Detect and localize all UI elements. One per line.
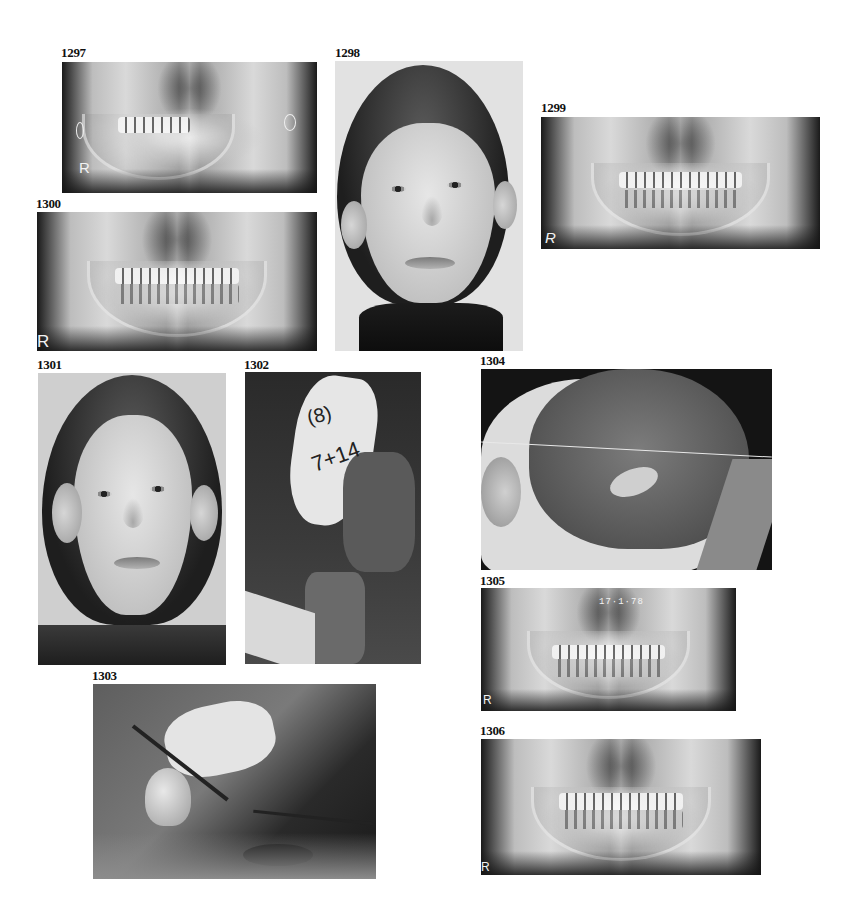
dentition (118, 117, 189, 133)
mouth (114, 557, 160, 569)
figure-label-1299: 1299 (541, 101, 566, 114)
ring-marker-left (76, 122, 84, 139)
ear (481, 457, 521, 527)
eye-left (447, 182, 463, 188)
radiograph-shadow (37, 326, 317, 351)
figure-1303-intraoperative (93, 684, 376, 879)
ear (145, 768, 191, 826)
figure-1299-radiograph: R (541, 117, 820, 249)
figure-1300-radiograph: R (37, 212, 317, 351)
side-marker-r: R (79, 160, 90, 175)
figure-label-1298: 1298 (335, 46, 360, 59)
side-marker-r: R (545, 230, 556, 245)
figure-label-1305: 1305 (480, 574, 505, 587)
figure-label-1304: 1304 (480, 354, 505, 367)
side-marker-r: R (483, 694, 492, 706)
figure-1297-radiograph: R (62, 62, 317, 193)
figure-label-1301: 1301 (37, 358, 62, 371)
dentition-lower (619, 190, 742, 208)
figure-1298-portrait (335, 61, 523, 351)
dentition-upper (559, 793, 682, 809)
radiograph-shadow (541, 225, 820, 249)
ear-left (190, 485, 218, 541)
nose (122, 498, 144, 528)
figure-label-1300: 1300 (36, 197, 61, 210)
mouth (405, 257, 455, 269)
turtleneck-collar (359, 303, 503, 351)
side-marker-r: R (37, 333, 49, 350)
shirt-collar (38, 625, 226, 665)
drape (93, 833, 376, 879)
dentition-upper (619, 172, 742, 188)
radiograph-shadow (481, 689, 736, 711)
figure-1306-radiograph: R (481, 739, 761, 875)
dentition-lower (559, 810, 682, 829)
eye-right (96, 491, 112, 497)
figure-label-1303: 1303 (92, 669, 117, 682)
date-stamp: 17·1·78 (599, 598, 644, 607)
dentition-upper (115, 268, 238, 285)
eye-left (150, 486, 166, 492)
ear-right (341, 201, 367, 249)
figure-label-1302: 1302 (244, 358, 269, 371)
probe-instrument (253, 810, 373, 826)
figure-1305-radiograph: 17·1·78 R (481, 588, 736, 711)
figure-label-1297: 1297 (61, 46, 86, 59)
eye-right (390, 186, 406, 192)
figure-1302-intraoperative: (8) 7+14 (245, 372, 421, 664)
figure-1304-intraoperative (481, 369, 772, 570)
ear-left (493, 181, 517, 229)
figure-label-1306: 1306 (480, 724, 505, 737)
dentition-lower (552, 659, 664, 676)
nose (421, 196, 443, 226)
ear-right (52, 483, 82, 543)
tissue-region (343, 452, 415, 572)
figure-1301-portrait (38, 373, 226, 665)
radiograph-shadow (481, 851, 761, 875)
radiograph-shadow (62, 169, 317, 193)
dentition-upper (552, 645, 664, 660)
dentition-lower (115, 284, 238, 303)
ring-marker-right (284, 114, 296, 131)
side-marker-r: R (481, 861, 490, 873)
